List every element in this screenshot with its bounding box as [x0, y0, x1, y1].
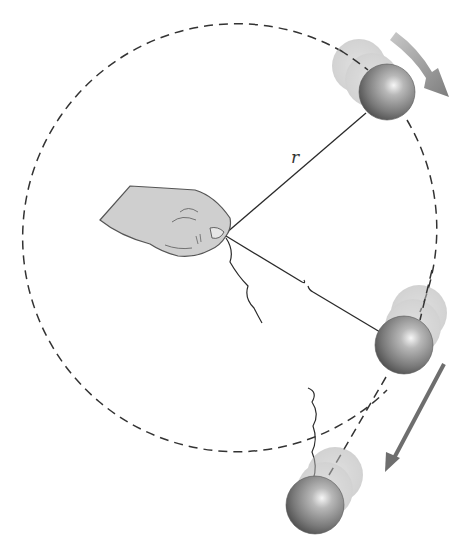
ball-flying: [286, 476, 344, 534]
string-to-release-ball-1: [226, 236, 302, 282]
radius-label: r: [291, 147, 300, 167]
circular-motion-diagram: r: [0, 0, 460, 538]
string-radius: [225, 113, 366, 234]
string-to-release-ball-2: [313, 292, 380, 332]
string-dangling: [226, 238, 262, 323]
ball-release: [375, 316, 433, 374]
arrow-tangent-icon: [385, 364, 444, 472]
ball-top: [359, 64, 415, 120]
hand: [100, 186, 231, 256]
